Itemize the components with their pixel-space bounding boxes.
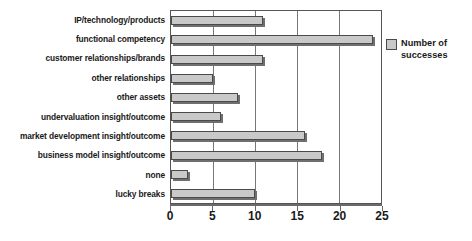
plot-area <box>170 10 382 204</box>
category-label: business model insight/outcome <box>0 146 168 165</box>
bar[interactable] <box>171 151 322 160</box>
bar[interactable] <box>171 170 188 179</box>
x-axis-tick-label: 20 <box>333 210 346 222</box>
x-axis-tick-label: 10 <box>248 210 261 222</box>
x-axis-tick-label: 0 <box>167 210 174 222</box>
bar[interactable] <box>171 35 373 44</box>
category-label: customer relationships/brands <box>0 49 168 68</box>
x-axis-tick-labels: 0510152025 <box>170 210 382 230</box>
legend-swatch-icon <box>386 39 397 50</box>
bar-slot <box>171 11 381 30</box>
x-axis-tick-label: 5 <box>209 210 216 222</box>
legend: Number of successes <box>386 38 472 61</box>
bar-slot <box>171 107 381 126</box>
bar-series <box>171 11 381 203</box>
bar-chart: IP/technology/products functional compet… <box>0 0 472 241</box>
bar-slot <box>171 145 381 164</box>
bar-slot <box>171 88 381 107</box>
bar[interactable] <box>171 189 255 198</box>
category-label: other assets <box>0 88 168 107</box>
category-label: IP/technology/products <box>0 10 168 29</box>
x-axis-tick-label: 25 <box>375 210 388 222</box>
bar-slot <box>171 165 381 184</box>
bar[interactable] <box>171 16 263 25</box>
x-axis-tick-label: 15 <box>291 210 304 222</box>
category-label: lucky breaks <box>0 185 168 204</box>
bar[interactable] <box>171 74 213 83</box>
bar-slot <box>171 49 381 68</box>
category-label: none <box>0 165 168 184</box>
category-label: undervaluation insight/outcome <box>0 107 168 126</box>
category-axis-labels: IP/technology/products functional compet… <box>0 10 168 204</box>
bar-slot <box>171 126 381 145</box>
bar-slot <box>171 30 381 49</box>
category-label: functional competency <box>0 29 168 48</box>
bar[interactable] <box>171 55 263 64</box>
bar-slot <box>171 69 381 88</box>
category-label: other relationships <box>0 68 168 87</box>
category-label: market development insight/outcome <box>0 126 168 145</box>
bar[interactable] <box>171 93 238 102</box>
bar[interactable] <box>171 112 221 121</box>
bar[interactable] <box>171 131 305 140</box>
bar-slot <box>171 184 381 203</box>
legend-label: Number of successes <box>401 38 472 61</box>
